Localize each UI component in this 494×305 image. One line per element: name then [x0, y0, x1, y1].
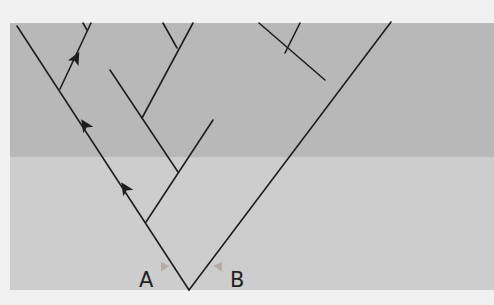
background-bands	[10, 23, 494, 290]
lineage-label-a: A	[139, 270, 153, 291]
lineage-label-b: B	[230, 270, 244, 291]
phylogenetic-tree-diagram	[0, 0, 494, 305]
upper-band	[10, 23, 494, 157]
lower-band	[10, 157, 494, 290]
